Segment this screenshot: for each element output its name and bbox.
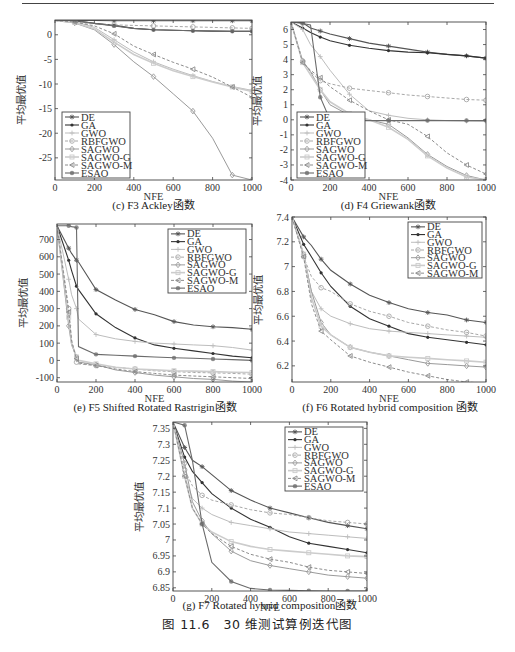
f7-svg: 020040060080010007.357.37.257.27.157.17.… <box>0 0 515 652</box>
svg-text:7.35: 7.35 <box>153 423 171 434</box>
svg-text:6.85: 6.85 <box>153 582 171 593</box>
svg-text:7.15: 7.15 <box>153 487 171 498</box>
svg-text:7.05: 7.05 <box>153 519 171 530</box>
svg-text:6.9: 6.9 <box>158 566 171 577</box>
svg-text:7.2: 7.2 <box>158 471 171 482</box>
svg-text:6.95: 6.95 <box>153 550 171 561</box>
svg-text:7: 7 <box>165 534 170 545</box>
svg-text:7.1: 7.1 <box>158 503 171 514</box>
svg-text:7.25: 7.25 <box>153 455 171 466</box>
caption-f7: (g) F7 Rotated hybrid composition函数 <box>160 596 380 612</box>
figure-caption: 图 11.6 30 维测试算例迭代图 <box>0 614 515 633</box>
svg-text:平均最优值: 平均最优值 <box>133 481 145 532</box>
svg-text:ESAO: ESAO <box>304 481 332 492</box>
svg-text:7.3: 7.3 <box>158 439 171 450</box>
